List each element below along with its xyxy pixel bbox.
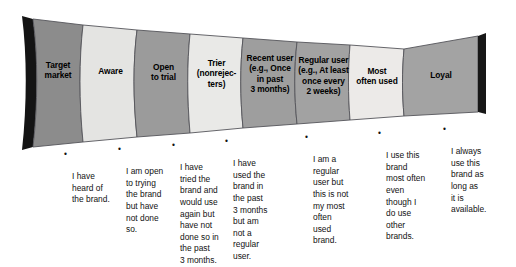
- caption-loyal: • I always use this brand as long as it …: [443, 123, 501, 227]
- stage-label-loyal: Loyal: [404, 70, 478, 80]
- funnel-right-endcap: [478, 33, 486, 114]
- funnel-left-endcap: [22, 16, 37, 150]
- caption-open-to-trial: • I am open to trying the brand but have…: [118, 143, 174, 247]
- bullet-icon: •: [64, 149, 67, 161]
- funnel-segment-aware: [80, 25, 137, 142]
- caption-aware: • I have heard of the brand.: [64, 148, 120, 218]
- caption-text: I have heard of the brand.: [72, 171, 120, 206]
- bullet-icon: •: [378, 128, 381, 140]
- caption-text: I am a regular user but this is not my m…: [313, 154, 361, 247]
- caption-text: I use this brand most often even though …: [386, 150, 436, 243]
- caption-recent-user: • I have used the brand in the past 3 mo…: [225, 135, 281, 267]
- stage-label-open-to-trial: Open to trial: [137, 62, 190, 83]
- caption-most-often-used: • I use this brand most often even thoug…: [378, 127, 436, 255]
- caption-trier: • I have tried the brand and would use a…: [172, 139, 228, 267]
- stage-label-aware: Aware: [84, 66, 137, 76]
- bullet-icon: •: [225, 136, 228, 148]
- stage-label-regular-user: Regular user (e.g., At least once every …: [295, 55, 352, 97]
- caption-text: I am open to trying the brand but have n…: [126, 166, 174, 236]
- caption-text: I have tried the brand and would use aga…: [180, 162, 228, 266]
- funnel-segment-open-to-trial: [134, 30, 190, 137]
- caption-text: I have used the brand in the past 3 mont…: [233, 158, 281, 262]
- bullet-icon: •: [305, 132, 308, 144]
- stage-label-recent-user: Recent user (e.g., Once in past 3 months…: [242, 53, 298, 95]
- caption-text: I always use this brand as long as it is…: [451, 146, 501, 216]
- bullet-icon: •: [118, 144, 121, 156]
- stage-label-target-market: Target market: [33, 60, 83, 81]
- bullet-icon: •: [172, 140, 175, 152]
- stage-label-trier: Trier (nonrejec- ters): [190, 58, 243, 89]
- stage-label-most-often-used: Most often used: [350, 66, 404, 87]
- caption-regular-user: • I am a regular user but this is not my…: [305, 131, 361, 259]
- bullet-icon: •: [443, 124, 446, 136]
- funnel-segment-target-market: [33, 19, 83, 147]
